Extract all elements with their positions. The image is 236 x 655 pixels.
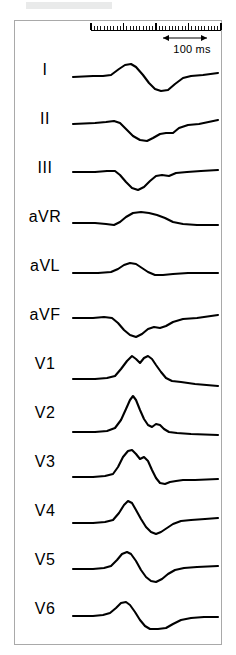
ecg-waveform-avr <box>73 198 221 247</box>
ecg-waveform-v4 <box>73 492 221 541</box>
lead-trace-iii <box>73 149 221 198</box>
lead-label-v2: V2 <box>15 404 75 422</box>
ecg-waveform-v6 <box>73 590 221 639</box>
lead-label-avl: aVL <box>15 257 75 275</box>
lead-row-v6: V6 <box>15 590 223 639</box>
lead-label-iii: III <box>15 159 75 177</box>
lead-label-ii: II <box>15 110 75 128</box>
lead-row-v5: V5 <box>15 541 223 590</box>
lead-label-avf: aVF <box>15 306 75 324</box>
lead-row-i: I <box>15 51 223 100</box>
lead-trace-v1 <box>73 345 221 394</box>
lead-label-v1: V1 <box>15 355 75 373</box>
lead-trace-v4 <box>73 492 221 541</box>
ecg-waveform-i <box>73 51 221 100</box>
lead-row-avl: aVL <box>15 247 223 296</box>
lead-row-ii: II <box>15 100 223 149</box>
lead-trace-avr <box>73 198 221 247</box>
lead-row-v2: V2 <box>15 394 223 443</box>
lead-label-v5: V5 <box>15 551 75 569</box>
lead-trace-i <box>73 51 221 100</box>
double-arrow-icon <box>163 35 207 41</box>
lead-trace-ii <box>73 100 221 149</box>
lead-trace-v3 <box>73 443 221 492</box>
lead-label-avr: aVR <box>15 208 75 226</box>
lead-trace-v6 <box>73 590 221 639</box>
lead-trace-v2 <box>73 394 221 443</box>
lead-row-v4: V4 <box>15 492 223 541</box>
lead-row-avr: aVR <box>15 198 223 247</box>
ecg-waveform-v2 <box>73 394 221 443</box>
lead-label-v4: V4 <box>15 502 75 520</box>
lead-label-v6: V6 <box>15 600 75 618</box>
lead-trace-avl <box>73 247 221 296</box>
ecg-waveform-avl <box>73 247 221 296</box>
lead-row-iii: III <box>15 149 223 198</box>
lead-label-v3: V3 <box>15 453 75 471</box>
lead-label-i: I <box>15 61 75 79</box>
ecg-waveform-v5 <box>73 541 221 590</box>
ecg-waveform-v1 <box>73 345 221 394</box>
lead-trace-avf <box>73 296 221 345</box>
lead-row-v3: V3 <box>15 443 223 492</box>
ecg-waveform-avf <box>73 296 221 345</box>
ecg-waveform-v3 <box>73 443 221 492</box>
top-gray-bar <box>26 2 112 9</box>
ecg-waveform-iii <box>73 149 221 198</box>
ecg-waveform-ii <box>73 100 221 149</box>
lead-row-v1: V1 <box>15 345 223 394</box>
ecg-figure-frame: 100 ms IIIIIIaVRaVLaVFV1V2V3V4V5V6 <box>14 20 222 645</box>
lead-row-avf: aVF <box>15 296 223 345</box>
lead-trace-v5 <box>73 541 221 590</box>
